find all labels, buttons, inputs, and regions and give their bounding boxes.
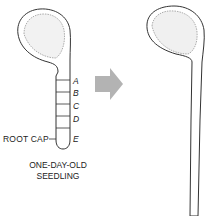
root-cap-label: ROOT CAP <box>3 134 49 144</box>
segment-label-c: C <box>73 101 79 111</box>
segment-label-a: A <box>73 76 79 86</box>
segment-label-b: B <box>73 88 79 98</box>
caption-line-2: SEEDLING <box>22 171 94 182</box>
segment-label-d: D <box>73 114 79 124</box>
seedling-caption: ONE-DAY-OLD SEEDLING <box>22 160 94 182</box>
caption-line-1: ONE-DAY-OLD <box>22 160 94 171</box>
segment-label-e: E <box>73 134 79 144</box>
right-seedling <box>147 6 204 216</box>
arrow-right-icon <box>95 68 123 100</box>
left-seedling <box>18 9 71 149</box>
diagram-canvas <box>0 0 221 216</box>
